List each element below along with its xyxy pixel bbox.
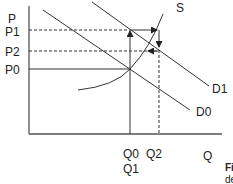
demand-d0-label: D0 bbox=[196, 106, 211, 118]
price-label-p1: P1 bbox=[5, 26, 20, 38]
caption-fig: Fi bbox=[225, 162, 233, 173]
price-label-p0: P0 bbox=[5, 64, 20, 76]
quantity-label-q2: Q2 bbox=[146, 148, 162, 160]
caption-rest: de bbox=[225, 174, 233, 184]
demand-curve-d0 bbox=[43, 10, 190, 110]
price-label-p2: P2 bbox=[5, 46, 20, 58]
supply-curve bbox=[78, 14, 163, 90]
demand-d1-label: D1 bbox=[212, 83, 227, 95]
x-axis-label: Q bbox=[203, 150, 212, 162]
demand-curve-d1 bbox=[92, 2, 209, 86]
y-axis-label: P bbox=[8, 13, 16, 25]
supply-demand-diagram bbox=[0, 0, 233, 184]
quantity-label-q1: Q1 bbox=[123, 163, 139, 175]
supply-label: S bbox=[176, 2, 184, 14]
quantity-label-q0: Q0 bbox=[123, 148, 139, 160]
